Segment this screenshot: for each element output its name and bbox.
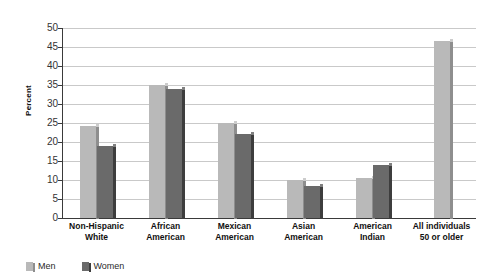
y-axis-tick-label: 35 bbox=[34, 80, 58, 90]
bar-side bbox=[320, 187, 323, 219]
bar-face bbox=[434, 41, 450, 218]
x-axis-category-label: AsianAmerican bbox=[269, 221, 338, 242]
x-axis-category-label-line: Indian bbox=[338, 232, 407, 243]
x-axis-category-label: MexicanAmerican bbox=[200, 221, 269, 242]
axes bbox=[62, 28, 476, 218]
y-axis-tick-label: 25 bbox=[34, 118, 58, 128]
y-axis-tick-label: 10 bbox=[34, 175, 58, 185]
x-axis-category-label-line: African bbox=[131, 221, 200, 232]
y-axis-tick-label: 5 bbox=[34, 194, 58, 204]
chart-legend: MenWomen bbox=[26, 261, 124, 271]
bar-women-0 bbox=[97, 146, 113, 218]
y-axis-tick-label: 20 bbox=[34, 137, 58, 147]
x-axis-category-label-line: Asian bbox=[269, 221, 338, 232]
x-axis-category-label: All individuals50 or older bbox=[407, 221, 476, 242]
plot-area: Percent 05101520253035404550 Non-Hispani… bbox=[0, 0, 486, 246]
bar-women-4 bbox=[373, 165, 389, 218]
bar-men-3 bbox=[287, 180, 303, 218]
bar-men-4 bbox=[356, 178, 372, 218]
bar-men-2 bbox=[218, 123, 234, 218]
bar-face bbox=[218, 123, 234, 218]
y-axis-tick-label: 50 bbox=[34, 23, 58, 33]
x-axis-category-label-line: White bbox=[62, 232, 131, 243]
legend-label: Women bbox=[94, 261, 125, 271]
bar-side bbox=[389, 166, 392, 219]
x-axis-category-label-line: American bbox=[338, 221, 407, 232]
bar-women-3 bbox=[304, 186, 320, 218]
bar-men-0 bbox=[80, 126, 96, 218]
x-axis-line bbox=[62, 218, 476, 219]
x-axis-category-label-line: 50 or older bbox=[407, 232, 476, 243]
x-axis-category-labels: Non-HispanicWhiteAfricanAmericanMexicanA… bbox=[62, 221, 476, 247]
bar-side bbox=[182, 90, 185, 219]
bar-top-cap bbox=[165, 83, 168, 86]
legend-label: Men bbox=[38, 261, 56, 271]
bar-top-cap bbox=[251, 132, 254, 135]
y-axis-tick-label: 15 bbox=[34, 156, 58, 166]
bar-men-1 bbox=[149, 85, 165, 218]
legend-swatch-side bbox=[89, 263, 91, 272]
bar-top-cap bbox=[234, 121, 237, 124]
bar-face bbox=[166, 89, 182, 218]
y-axis-tick-labels: 05101520253035404550 bbox=[32, 0, 58, 246]
x-axis-category-label: AfricanAmerican bbox=[131, 221, 200, 242]
bar-women-1 bbox=[166, 89, 182, 218]
bar-top-cap bbox=[182, 87, 185, 90]
bar-side bbox=[113, 147, 116, 219]
x-axis-category-label-line: American bbox=[131, 232, 200, 243]
bar-face bbox=[80, 126, 96, 218]
x-axis-category-label-line: All individuals bbox=[407, 221, 476, 232]
x-axis-category-label-line: American bbox=[200, 232, 269, 243]
x-axis-category-label-line: Mexican bbox=[200, 221, 269, 232]
y-axis-tick-label: 0 bbox=[34, 213, 58, 223]
bar-face bbox=[373, 165, 389, 218]
x-axis-category-label: AmericanIndian bbox=[338, 221, 407, 242]
x-axis-category-label-line: Non-Hispanic bbox=[62, 221, 131, 232]
bar-face bbox=[287, 180, 303, 218]
x-axis-category-label-line: American bbox=[269, 232, 338, 243]
legend-item-men[interactable]: Men bbox=[26, 261, 56, 271]
bar-top-cap bbox=[303, 178, 306, 181]
bar-face bbox=[235, 134, 251, 218]
bar-top-cap bbox=[113, 144, 116, 147]
bar-men-5 bbox=[434, 41, 450, 218]
x-axis-category-label: Non-HispanicWhite bbox=[62, 221, 131, 242]
bar-face bbox=[97, 146, 113, 218]
bar-top-cap bbox=[389, 163, 392, 166]
y-axis-tick-label: 40 bbox=[34, 61, 58, 71]
bar-women-2 bbox=[235, 134, 251, 218]
bar-side bbox=[450, 42, 453, 219]
y-axis-tick-label: 30 bbox=[34, 99, 58, 109]
y-axis-tick-label: 45 bbox=[34, 42, 58, 52]
bar-face bbox=[304, 186, 320, 218]
bar-top-cap bbox=[320, 184, 323, 187]
bar-top-cap bbox=[450, 39, 453, 42]
bar-chart-figure: Percent 05101520253035404550 Non-Hispani… bbox=[0, 0, 486, 279]
bar-top-cap bbox=[96, 124, 99, 127]
legend-item-women[interactable]: Women bbox=[82, 261, 125, 271]
legend-swatch-icon bbox=[26, 262, 33, 271]
bar-face bbox=[149, 85, 165, 218]
bar-side bbox=[251, 135, 254, 219]
legend-swatch-icon bbox=[82, 262, 89, 271]
legend-swatch-side bbox=[33, 263, 35, 272]
bars-layer bbox=[62, 28, 476, 218]
bar-face bbox=[356, 178, 372, 218]
